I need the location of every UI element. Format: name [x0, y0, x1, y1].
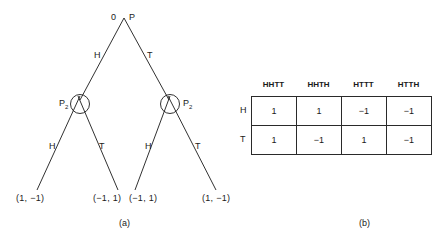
right-edge-h-label: H	[145, 141, 152, 151]
info-set-right-label: P2	[183, 98, 192, 112]
table-cell: 1	[342, 126, 387, 155]
table-cell: 1	[252, 97, 297, 126]
table-cell: −1	[342, 97, 387, 126]
payoff-4: (1, −1)	[202, 193, 230, 203]
row-header: H	[240, 105, 247, 115]
right-edge-t-label: T	[195, 141, 201, 151]
info-set-left-label: P2	[59, 98, 68, 112]
table-row: 1 −1 1 −1	[252, 126, 432, 155]
row-header: T	[240, 134, 246, 144]
caption-a: (a)	[119, 218, 130, 228]
payoff-matrix: 1 1 −1 −1 1 −1 1 −1	[251, 96, 432, 155]
table-cell: −1	[387, 97, 432, 126]
column-header: HTTT	[341, 80, 386, 89]
table-row: 1 1 −1 −1	[252, 97, 432, 126]
edge-right-h	[135, 96, 170, 190]
edge-left-t	[78, 96, 118, 190]
player-subscript: 2	[189, 104, 192, 110]
root-number: 0	[111, 12, 116, 22]
table-cell: −1	[387, 126, 432, 155]
root-player-label: P	[129, 12, 135, 22]
edge-root-h	[80, 18, 124, 100]
table-cell: 1	[252, 126, 297, 155]
payoff-2: (−1, 1)	[93, 193, 121, 203]
root-edge-h-label: H	[94, 50, 101, 60]
column-header: HHTH	[296, 80, 341, 89]
column-header: HTTH	[386, 80, 431, 89]
caption-b: (b)	[359, 218, 370, 228]
info-set-right	[161, 95, 180, 114]
player-subscript: 2	[65, 104, 68, 110]
left-edge-t-label: T	[99, 141, 105, 151]
table-cell: 1	[297, 97, 342, 126]
payoff-1: (1, −1)	[16, 193, 44, 203]
column-header: HHTT	[251, 80, 296, 89]
payoff-3: (−1, 1)	[129, 193, 157, 203]
table-cell: −1	[297, 126, 342, 155]
root-edge-t-label: T	[147, 50, 153, 60]
left-edge-h-label: H	[49, 141, 56, 151]
